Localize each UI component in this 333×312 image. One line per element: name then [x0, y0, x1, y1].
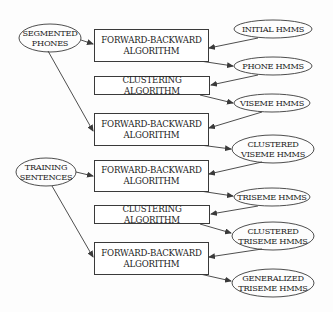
process-forward-backward-2: FORWARD-BACKWARD ALGORITHM — [94, 113, 209, 146]
process-clustering-1: CLUSTERING ALGORITHM — [94, 76, 210, 95]
node-clustered-triseme-hmms: CLUSTERED TRISEME HMMS — [232, 222, 314, 250]
process-forward-backward-3: FORWARD-BACKWARD ALGORITHM — [94, 160, 209, 192]
process-label: FORWARD-BACKWARD ALGORITHM — [101, 165, 201, 187]
node-clustered-viseme-hmms: CLUSTERED VISEME HMMS — [232, 135, 314, 163]
edge-cltriseme-to-fb4 — [209, 249, 262, 257]
process-clustering-2: CLUSTERING ALGORITHM — [94, 205, 210, 224]
training-pipeline-diagram: SEGMENTED PHONES TRAINING SENTENCES FORW… — [0, 0, 333, 312]
node-label: INITIAL HMMS — [242, 24, 304, 34]
edge-triseme-to-cl2 — [211, 206, 258, 214]
edge-initial-to-fb1 — [209, 38, 258, 48]
node-label: TRISEME HMMS — [237, 192, 306, 202]
node-phone-hmms: PHONE HMMS — [234, 57, 312, 75]
process-label: CLUSTERING ALGORITHM — [95, 204, 209, 226]
process-forward-backward-4: FORWARD-BACKWARD ALGORITHM — [94, 242, 209, 275]
node-label: CLUSTERED TRISEME HMMS — [238, 226, 307, 246]
node-initial-hmms: INITIAL HMMS — [234, 20, 312, 38]
edge-clviseme-to-fb3 — [209, 162, 262, 174]
edge-training-to-fb3 — [76, 172, 93, 176]
process-forward-backward-1: FORWARD-BACKWARD ALGORITHM — [94, 29, 209, 62]
node-segmented-phones: SEGMENTED PHONES — [19, 24, 81, 52]
node-triseme-hmms: TRISEME HMMS — [234, 188, 310, 206]
node-training-sentences: TRAINING SENTENCES — [16, 158, 76, 186]
edge-segmented-to-fb1 — [81, 40, 93, 44]
edge-viseme-to-fb2 — [209, 112, 262, 128]
process-label: FORWARD-BACKWARD ALGORITHM — [101, 248, 201, 270]
node-label: TRAINING SENTENCES — [20, 162, 73, 182]
edge-training-to-fb4 — [52, 186, 93, 257]
node-label: PHONE HMMS — [242, 61, 304, 71]
node-generalized-triseme-hmms: GENERALIZED TRISEME HMMS — [232, 269, 314, 297]
node-viseme-hmms: VISEME HMMS — [234, 94, 310, 112]
edge-phone-to-cl1 — [211, 75, 258, 85]
edge-fb4-to-generalized — [200, 274, 231, 281]
process-label: CLUSTERING ALGORITHM — [95, 75, 209, 97]
node-label: GENERALIZED TRISEME HMMS — [238, 273, 307, 293]
node-label: VISEME HMMS — [240, 98, 304, 108]
process-label: FORWARD-BACKWARD ALGORITHM — [101, 35, 201, 57]
edge-segmented-to-fb2 — [48, 51, 93, 131]
process-label: FORWARD-BACKWARD ALGORITHM — [101, 119, 201, 141]
node-label: CLUSTERED VISEME HMMS — [241, 139, 305, 159]
node-label: SEGMENTED PHONES — [23, 28, 78, 48]
